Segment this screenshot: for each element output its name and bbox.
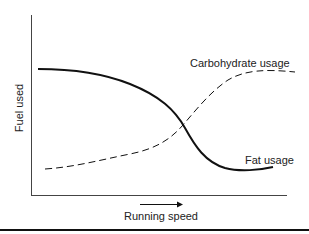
direction-arrow-icon [140, 202, 183, 208]
fat-usage-line [38, 69, 273, 170]
y-axis-label: Fuel used [13, 84, 25, 132]
x-axis-label: Running speed [124, 210, 198, 222]
fuel-usage-chart: Carbohydrate usage Fat usage Fuel used R… [0, 0, 309, 234]
carbohydrate-usage-label: Carbohydrate usage [190, 57, 290, 69]
fat-usage-label: Fat usage [245, 154, 294, 166]
